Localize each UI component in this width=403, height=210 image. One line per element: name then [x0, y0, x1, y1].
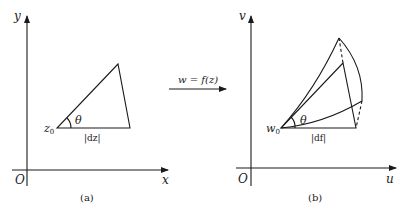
mapping-arrow-group: w = f(z): [169, 74, 226, 89]
image-curve-right: [339, 38, 362, 101]
origin-label-a: O: [15, 173, 25, 187]
dashed-connector-right: [356, 101, 362, 128]
v-axis-label: v: [239, 9, 246, 23]
panel-a: y O x z0 θ |dz| (a): [12, 9, 169, 203]
image-curve-upper: [281, 38, 339, 128]
u-axis-label: u: [386, 172, 394, 186]
point-w-subscript: 0: [275, 128, 279, 136]
mapping-label: w = f(z): [178, 74, 218, 85]
y-axis-label: y: [13, 9, 21, 23]
segment-dz-label: |dz|: [84, 133, 101, 144]
angle-label-a: θ: [75, 114, 82, 127]
point-z-subscript: 0: [50, 128, 54, 136]
caption-a: (a): [80, 192, 94, 203]
angle-label-b: θ: [300, 114, 307, 127]
point-z0-label: z0: [43, 122, 54, 136]
conformal-mapping-diagram: y O x z0 θ |dz| (a) w = f(z) v O: [0, 0, 403, 210]
caption-b: (b): [308, 192, 322, 203]
point-w0-label: w0: [266, 122, 280, 136]
angle-arc-a: [67, 118, 71, 128]
x-axis-label: x: [162, 173, 169, 187]
panel-b: v O u w0 θ |df| (b): [236, 9, 396, 203]
segment-df-label: |df|: [311, 133, 326, 144]
origin-label-b: O: [238, 172, 248, 186]
